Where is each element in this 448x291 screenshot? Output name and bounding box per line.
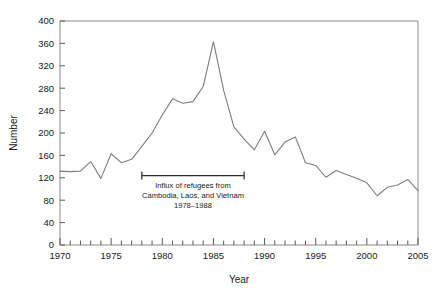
annotation-text-line: Influx of refugees from: [155, 181, 231, 190]
annotation-text-line: Cambodia, Laos, and Vietnam: [142, 191, 244, 200]
y-tick-label: 120: [38, 172, 54, 183]
y-tick-label: 200: [38, 127, 54, 138]
x-tick-label: 2005: [407, 250, 428, 261]
y-tick-label: 0: [49, 239, 54, 250]
x-tick-label: 1985: [203, 250, 224, 261]
x-tick-label: 1980: [152, 250, 173, 261]
x-tick-label: 1975: [101, 250, 122, 261]
y-tick-label: 280: [38, 83, 54, 94]
y-tick-label: 40: [43, 217, 54, 228]
x-axis-title: Year: [229, 274, 250, 285]
y-tick-label: 400: [38, 15, 54, 26]
y-axis-title: Number: [8, 115, 19, 151]
y-tick-label: 240: [38, 105, 54, 116]
y-tick-label: 80: [43, 195, 54, 206]
x-tick-label: 1995: [305, 250, 326, 261]
line-chart: 04080120160200240280320360400 1970197519…: [0, 0, 448, 291]
x-tick-label: 1990: [254, 250, 275, 261]
annotation-text-line: 1978–1988: [174, 201, 212, 210]
y-tick-label: 160: [38, 150, 54, 161]
y-tick-label: 360: [38, 38, 54, 49]
y-tick-label: 320: [38, 60, 54, 71]
x-tick-label: 2000: [356, 250, 377, 261]
chart-container: 04080120160200240280320360400 1970197519…: [0, 0, 448, 291]
x-tick-label: 1970: [49, 250, 70, 261]
chart-background: [0, 0, 448, 291]
